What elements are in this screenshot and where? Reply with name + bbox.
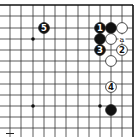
diagram-caption-fragment [6,133,14,137]
move-number-label: 3 [97,45,103,55]
white-stone [106,34,117,45]
black-stone-1: 1 [95,23,106,34]
star-point-icon [98,104,102,108]
black-stone-5: 5 [39,23,50,34]
white-stone-icon [106,56,117,67]
stones-layer: 13245 [39,23,128,116]
point-marker-label: a [120,35,125,44]
move-number-label: 1 [97,23,103,33]
white-stone-2: 2 [117,45,128,56]
star-point-icon [31,104,35,108]
white-stone-4: 4 [106,82,117,93]
black-stone-icon [95,34,106,45]
star-point-icon [31,37,35,41]
markers-layer: a [119,35,126,44]
black-stone-icon [106,105,117,116]
star-points [31,37,102,108]
black-stone-icon [106,23,117,34]
black-stone [95,34,106,45]
move-number-label: 4 [108,82,114,92]
white-stone-icon [106,34,117,45]
move-number-label: 2 [119,45,125,55]
black-stone [106,23,117,34]
white-stone-icon [117,23,128,34]
black-stone [106,105,117,116]
go-board-diagram: 13245 a [0,0,137,137]
move-number-label: 5 [41,23,47,33]
white-stone [117,23,128,34]
white-stone [106,56,117,67]
black-stone-3: 3 [95,45,106,56]
